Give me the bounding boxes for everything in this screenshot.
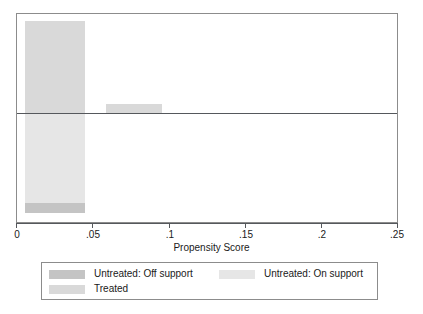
legend-entry-untreated-on-support: Untreated: On support: [219, 268, 363, 280]
x-tick-mark-25: [397, 224, 398, 228]
propensity-score-histogram-figure: 0 .05 .1 .15 .2 .25 Propensity Score Unt…: [0, 0, 423, 314]
zero-baseline: [17, 113, 397, 114]
x-tick-mark-2: [321, 224, 322, 228]
legend-swatch-untreated-on-support: [219, 270, 255, 279]
x-tick-label-15: .15: [239, 229, 253, 241]
bar-treated-bin-1: [25, 21, 85, 113]
legend-entry-untreated-off-support: Untreated: Off support: [49, 268, 193, 280]
x-tick-mark-0: [16, 224, 17, 228]
x-tick-label-25: .25: [390, 229, 404, 241]
legend-swatch-treated: [49, 285, 85, 294]
x-tick-mark-05: [92, 224, 93, 228]
legend: Untreated: Off support Untreated: On sup…: [41, 262, 378, 300]
x-axis-title: Propensity Score: [0, 242, 423, 254]
bar-untreated-on-support: [25, 114, 85, 203]
x-tick-label-1: .1: [166, 229, 174, 241]
x-tick-label-0: 0: [14, 229, 20, 241]
legend-label-untreated-on-support: Untreated: On support: [264, 268, 363, 280]
bar-treated-bin-2: [106, 104, 162, 113]
x-tick-label-2: .2: [318, 229, 326, 241]
legend-swatch-untreated-off-support: [49, 270, 85, 279]
plot-area: [17, 14, 397, 222]
legend-label-treated: Treated: [94, 283, 128, 295]
x-axis-line: [16, 223, 398, 224]
plot-frame: [16, 13, 398, 223]
x-tick-label-05: .05: [86, 229, 100, 241]
legend-entry-treated: Treated: [49, 283, 128, 295]
bar-untreated-off-support: [25, 203, 85, 213]
x-tick-mark-15: [245, 224, 246, 228]
legend-label-untreated-off-support: Untreated: Off support: [94, 268, 193, 280]
x-tick-mark-1: [169, 224, 170, 228]
